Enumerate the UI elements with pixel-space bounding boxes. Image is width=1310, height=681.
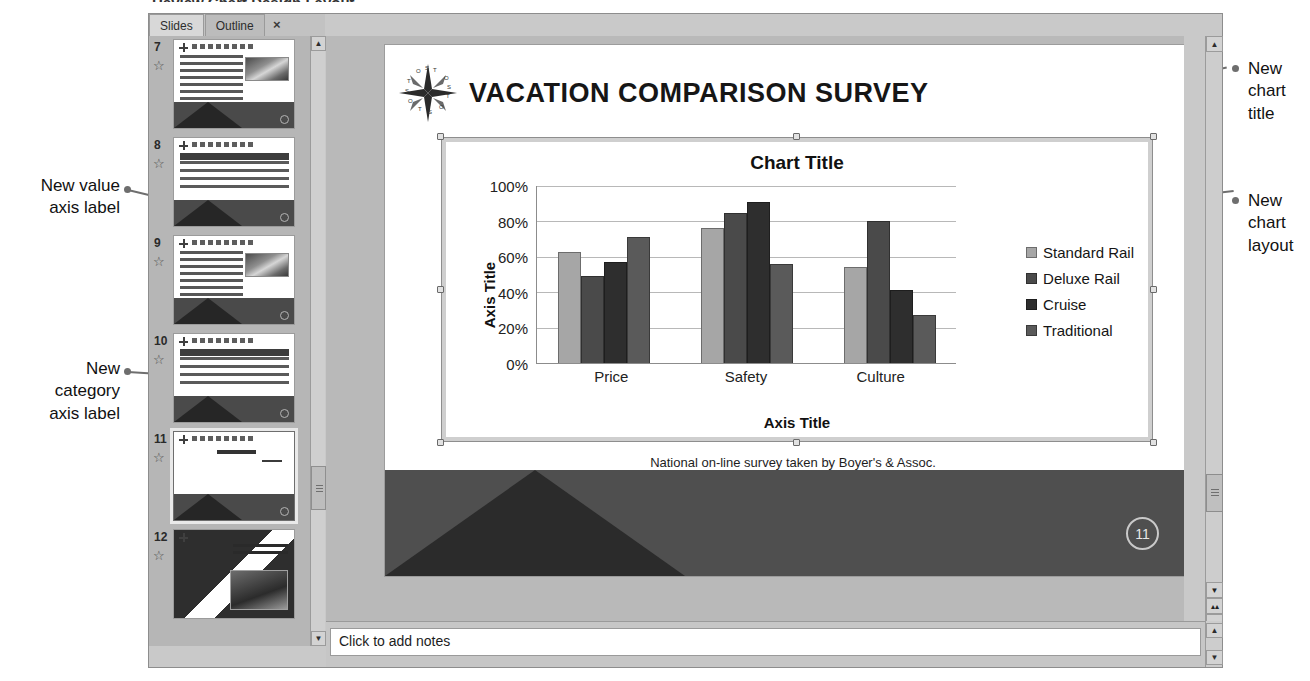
bar[interactable] [724, 213, 747, 363]
list-item[interactable]: 10 ☆ [149, 330, 324, 428]
legend-entry[interactable]: Standard Rail [1026, 244, 1134, 261]
resize-handle[interactable] [793, 133, 800, 140]
star-icon: ☆ [153, 548, 165, 563]
callout-line: New [8, 358, 120, 380]
thumbnail-image [230, 570, 288, 610]
scroll-down-icon[interactable]: ▼ [1206, 650, 1223, 665]
legend-swatch [1026, 247, 1037, 258]
value-axis-tick-labels: 0%20%40%60%80%100% [486, 186, 534, 364]
notes-scrollbar[interactable]: ▲ ▼ [1205, 621, 1222, 667]
resize-handle[interactable] [793, 439, 800, 446]
slide-thumbnail[interactable] [173, 137, 295, 227]
callout-line: New [1248, 190, 1310, 212]
screenshot-root: Review Chart Design Layout New value axi… [0, 0, 1310, 681]
bar[interactable] [844, 267, 867, 363]
bar[interactable] [747, 202, 770, 363]
thumbnail-title-placeholder [192, 44, 254, 49]
resize-handle[interactable] [437, 286, 444, 293]
callout-line: category [8, 380, 120, 402]
scroll-down-icon[interactable]: ▼ [311, 631, 326, 646]
slides-panel-scrollbar[interactable]: ▲ ▼ [310, 36, 325, 646]
callout-line: layout [1248, 235, 1310, 257]
resize-handle[interactable] [1150, 133, 1157, 140]
plus-icon [179, 141, 188, 150]
svg-text:T: T [418, 106, 422, 112]
resize-handle[interactable] [437, 439, 444, 446]
list-item[interactable]: 7 ☆ [149, 36, 324, 134]
resize-handle[interactable] [437, 133, 444, 140]
value-axis-tick: 80% [498, 213, 528, 230]
legend-swatch [1026, 299, 1037, 310]
slide-thumbnail[interactable] [173, 235, 295, 325]
tab-slides[interactable]: Slides [149, 14, 204, 36]
bar[interactable] [867, 221, 890, 363]
category-axis-tick: Price [544, 368, 679, 385]
slide-canvas[interactable]: OST OST OST OST VACATION COMPARISON SURV… [384, 44, 1184, 577]
thumbnail-footer [174, 200, 294, 226]
legend-entry[interactable]: Deluxe Rail [1026, 270, 1134, 287]
thumbnail-footer [174, 102, 294, 128]
svg-text:O: O [444, 75, 449, 81]
bar[interactable] [701, 228, 724, 363]
callout-new-chart-layout: New chart layout [1248, 190, 1310, 257]
resize-handle[interactable] [1150, 439, 1157, 446]
legend-swatch [1026, 325, 1037, 336]
plus-icon [179, 43, 188, 52]
thumbnail-text-lines [180, 251, 243, 298]
legend-entry[interactable]: Traditional [1026, 322, 1134, 339]
legend-entry[interactable]: Cruise [1026, 296, 1134, 313]
thumbnail-number: 12 [154, 530, 167, 544]
scroll-up-icon[interactable]: ▲ [1206, 623, 1223, 638]
thumbnail-title-placeholder [192, 142, 254, 147]
bar[interactable] [627, 237, 650, 363]
bar[interactable] [913, 315, 936, 363]
thumbnail-title-placeholder [192, 436, 254, 441]
list-item[interactable]: 9 ☆ [149, 232, 324, 330]
svg-text:S: S [428, 109, 432, 115]
slide-number-badge: 11 [1126, 517, 1159, 550]
chart-legend[interactable]: Standard RailDeluxe RailCruiseTraditiona… [1026, 244, 1134, 348]
thumbnail-body [180, 251, 289, 298]
bar[interactable] [558, 252, 581, 364]
stage-scrollbar[interactable]: ▲ ▼ ▴▴ ▾▾ [1205, 36, 1222, 646]
slide-editing-stage[interactable]: OST OST OST OST VACATION COMPARISON SURV… [326, 36, 1184, 646]
category-axis-title[interactable]: Axis Title [446, 414, 1148, 431]
scroll-up-icon[interactable]: ▲ [311, 36, 326, 51]
resize-handle[interactable] [1150, 286, 1157, 293]
bar-group [545, 186, 662, 363]
chart-title[interactable]: Chart Title [446, 152, 1148, 174]
scrollbar-thumb[interactable] [1206, 474, 1223, 512]
scroll-up-icon[interactable]: ▲ [1206, 36, 1223, 52]
close-icon[interactable]: × [266, 14, 288, 36]
thumbnail-number: 7 [154, 40, 161, 54]
tab-outline[interactable]: Outline [205, 14, 265, 36]
list-item[interactable]: 11 ☆ [149, 428, 324, 526]
thumbnail-footer [174, 298, 294, 324]
previous-slide-button[interactable]: ▴▴ [1206, 598, 1223, 614]
svg-text:T: T [407, 78, 411, 84]
slide-thumbnail[interactable] [173, 333, 295, 423]
thumbnail-body [180, 447, 289, 494]
bar[interactable] [770, 264, 793, 363]
callout-line: New value [8, 175, 120, 197]
notes-input[interactable]: Click to add notes [330, 628, 1201, 656]
scrollbar-thumb[interactable] [311, 466, 326, 510]
slide-thumbnail[interactable] [173, 529, 295, 619]
value-axis-tick: 40% [498, 284, 528, 301]
list-item[interactable]: 8 ☆ [149, 134, 324, 232]
chart-placeholder[interactable]: Chart Title Axis Title Axis Title 0%20%4… [441, 137, 1153, 442]
slide-thumbnail-selected[interactable] [173, 431, 295, 521]
legend-label: Deluxe Rail [1043, 270, 1120, 287]
notes-pane[interactable]: Click to add notes [326, 621, 1205, 667]
legend-label: Cruise [1043, 296, 1086, 313]
thumbnail-image [245, 57, 289, 81]
slide-thumbnail[interactable] [173, 39, 295, 129]
thumbnail-text-lines [233, 544, 288, 558]
slides-thumbnail-panel[interactable]: 7 ☆ 8 ☆ [149, 36, 325, 646]
scroll-down-icon[interactable]: ▼ [1206, 582, 1223, 598]
bar[interactable] [604, 262, 627, 363]
list-item[interactable]: 12 ☆ [149, 526, 324, 624]
bar[interactable] [581, 276, 604, 363]
thumbnail-body [180, 153, 289, 200]
bar[interactable] [890, 290, 913, 363]
